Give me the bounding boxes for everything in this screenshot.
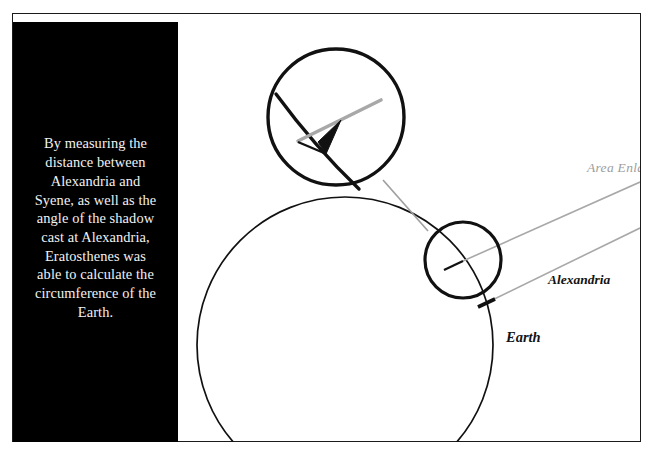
sun-ray-upper — [463, 182, 640, 261]
alexandria-detail-group — [425, 222, 501, 298]
magnifier-leader-line — [383, 180, 428, 231]
earth-group — [197, 197, 493, 442]
sun-ray-lower — [478, 228, 640, 307]
alexandria-circle — [425, 222, 501, 298]
slide-canvas: By measuring the distance between Alexan… — [0, 0, 657, 460]
eratosthenes-diagram: Area Enlarged Sun rays Alexandria Syene … — [178, 14, 640, 442]
diagram-svg — [178, 14, 640, 442]
label-alexandria: Alexandria — [548, 272, 610, 288]
magnifier-group — [268, 49, 404, 189]
caption-text: By measuring the distance between Alexan… — [22, 134, 170, 321]
enlarged-sun-ray — [298, 100, 381, 141]
enlarged-earth-surface — [276, 94, 359, 189]
earth-circle — [197, 197, 493, 442]
alexandria-gnomon — [444, 261, 463, 270]
label-area-enlarged: Area Enlarged — [587, 160, 640, 176]
label-earth: Earth — [506, 329, 541, 346]
caption-panel: By measuring the distance between Alexan… — [13, 22, 178, 442]
